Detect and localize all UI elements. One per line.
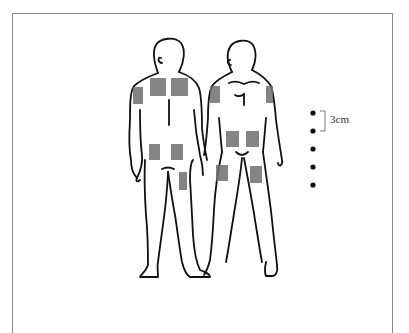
patch-front-thigh-right xyxy=(216,165,228,181)
patch-back-lower-left xyxy=(149,144,160,160)
patch-back-lower-right xyxy=(171,144,183,160)
patch-back-upper-right xyxy=(171,78,188,96)
scale-dot xyxy=(310,164,315,169)
back-view-figure xyxy=(129,39,210,277)
scale-dot xyxy=(310,110,315,115)
scale-dot xyxy=(310,146,315,151)
patch-front-thigh-left xyxy=(250,166,262,183)
patch-back-upper-left xyxy=(150,78,166,96)
patch-front-abdomen-left xyxy=(226,131,239,147)
patch-back-upper-arm xyxy=(133,87,143,104)
patch-front-upper-arm-left xyxy=(266,86,273,103)
scale-legend xyxy=(310,110,325,187)
scale-dot xyxy=(310,128,315,133)
patch-back-thigh xyxy=(179,172,187,190)
scale-label: 3cm xyxy=(330,113,349,125)
patch-front-upper-arm-right xyxy=(210,86,220,103)
front-view-figure xyxy=(204,41,282,276)
patch-front-abdomen-right xyxy=(246,131,259,147)
scale-bracket xyxy=(320,111,325,131)
scale-dot xyxy=(310,182,315,187)
